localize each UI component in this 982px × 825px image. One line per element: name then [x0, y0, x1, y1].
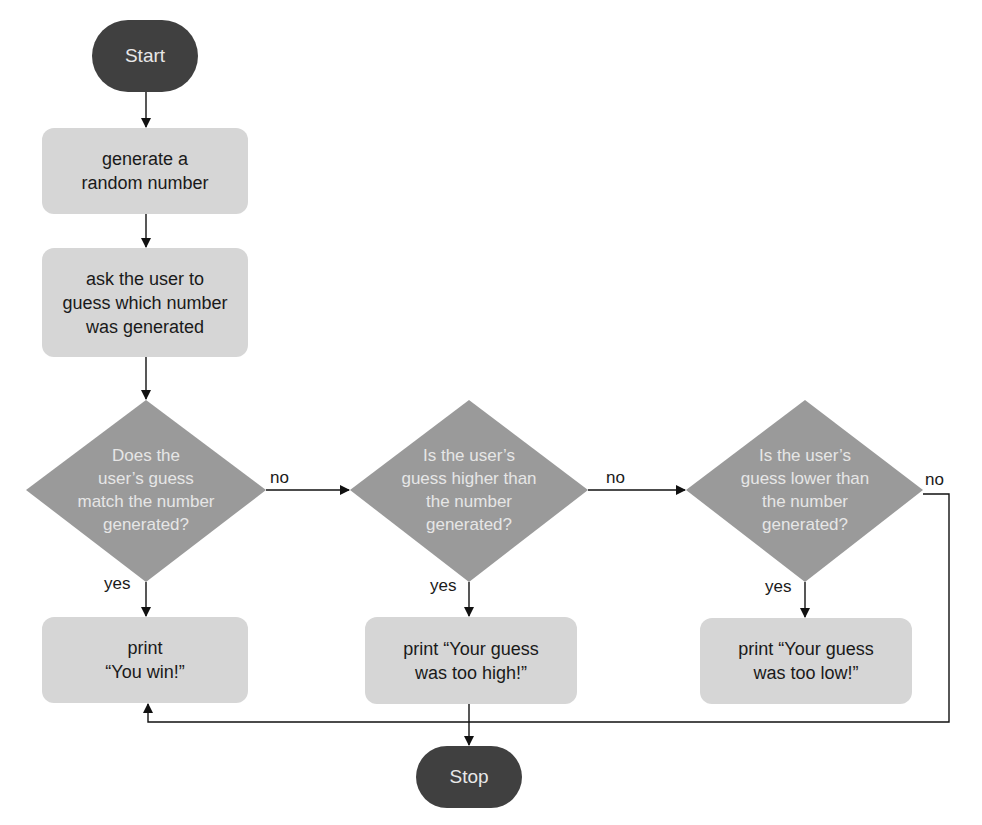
process-print-too-low: print “Your guess was too low!” [700, 618, 912, 704]
process-generate-line2: random number [81, 171, 208, 195]
decision-lower-line1: Is the user’s [759, 444, 851, 467]
process-toohigh-line1: print “Your guess [403, 637, 538, 661]
process-generate-line1: generate a [102, 147, 188, 171]
process-ask-user: ask the user to guess which number was g… [42, 248, 248, 357]
process-win-line2: “You win!” [105, 660, 184, 684]
edge-label-lower-no: no [925, 470, 944, 490]
process-toohigh-line2: was too high!” [415, 661, 527, 685]
decision-higher: Is the user’s guess higher than the numb… [369, 440, 569, 540]
process-ask-line1: ask the user to [86, 267, 204, 291]
decision-higher-line1: Is the user’s [423, 444, 515, 467]
decision-higher-line3: the number [426, 490, 512, 513]
decision-higher-line2: guess higher than [401, 467, 536, 490]
edge-label-match-no: no [270, 468, 289, 488]
decision-higher-line4: generated? [426, 513, 512, 536]
process-win-line1: print [127, 636, 162, 660]
process-ask-line2: guess which number [62, 291, 227, 315]
edge-label-lower-yes: yes [765, 577, 791, 597]
edge-label-match-yes: yes [104, 574, 130, 594]
stop-terminal: Stop [416, 746, 522, 808]
process-ask-line3: was generated [86, 315, 204, 339]
process-generate-number: generate a random number [42, 128, 248, 214]
decision-match: Does the user’s guess match the number g… [46, 440, 246, 540]
decision-match-line4: generated? [103, 513, 189, 536]
decision-match-line2: user’s guess [98, 467, 194, 490]
start-terminal: Start [92, 20, 198, 92]
decision-match-line3: match the number [77, 490, 214, 513]
decision-lower: Is the user’s guess lower than the numbe… [705, 440, 905, 540]
process-toolow-line2: was too low!” [753, 661, 858, 685]
edge-label-higher-no: no [606, 468, 625, 488]
stop-label: Stop [449, 766, 488, 788]
process-print-win: print “You win!” [42, 617, 248, 703]
decision-lower-line2: guess lower than [741, 467, 870, 490]
process-print-too-high: print “Your guess was too high!” [365, 617, 577, 704]
start-label: Start [125, 45, 165, 67]
process-toolow-line1: print “Your guess [738, 637, 873, 661]
decision-lower-line3: the number [762, 490, 848, 513]
edge-label-higher-yes: yes [430, 576, 456, 596]
decision-lower-line4: generated? [762, 513, 848, 536]
decision-match-line1: Does the [112, 444, 180, 467]
